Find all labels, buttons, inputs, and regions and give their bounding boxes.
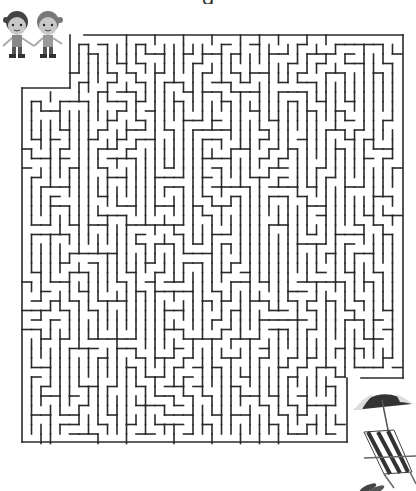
kids-icon	[0, 8, 72, 66]
beach-chair-umbrella-icon	[350, 388, 416, 491]
maze-walls	[22, 35, 403, 444]
